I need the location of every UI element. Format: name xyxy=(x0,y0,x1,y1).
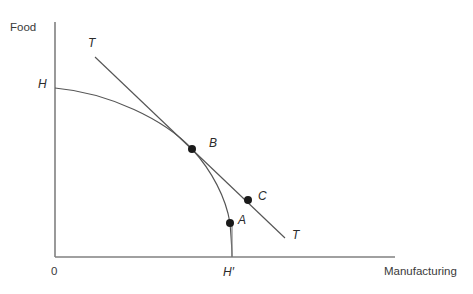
ppf-diagram: Food Manufacturing 0 H H′ T T B A C xyxy=(0,0,473,294)
data-point-c xyxy=(244,196,252,204)
point-label-c: C xyxy=(258,189,267,203)
tangent-label-lower-t: T xyxy=(292,228,299,242)
production-possibility-frontier-curve xyxy=(55,88,232,257)
origin-label: 0 xyxy=(51,265,57,277)
y-intercept-label-h: H xyxy=(38,77,47,91)
point-label-a: A xyxy=(238,213,246,227)
point-label-b: B xyxy=(209,136,217,150)
y-axis-title: Food xyxy=(10,21,36,33)
x-axis-title: Manufacturing xyxy=(384,265,457,277)
x-tick-label-h-prime: H′ xyxy=(223,265,234,279)
ppf-svg-canvas xyxy=(0,0,473,294)
data-point-a xyxy=(226,219,234,227)
tangent-label-upper-t: T xyxy=(88,36,95,50)
data-point-b xyxy=(188,145,196,153)
